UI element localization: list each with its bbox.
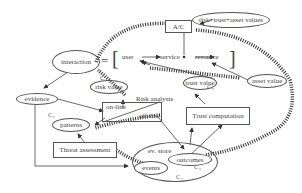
node-resource: resource	[195, 54, 219, 61]
cycle-label-c5: C₅	[207, 83, 214, 91]
node-patterns: patterns	[52, 118, 90, 132]
node-threat-assessment: Threat assessment	[53, 142, 117, 158]
node-on-line: on-line	[106, 104, 126, 111]
node-ac-label: A/C	[173, 23, 185, 31]
node-trust-computation: Trust computation	[186, 107, 250, 125]
node-asset-value: asset value	[247, 74, 287, 88]
node-risk-trust-asset-values: risk+trust+asset values	[192, 12, 270, 28]
node-evidence-label: evidence	[25, 95, 50, 103]
bracket-open: [	[112, 48, 119, 68]
node-interaction: interaction	[52, 50, 100, 74]
cycle-label-c3: C₃	[194, 163, 201, 171]
node-evidence: evidence	[16, 93, 58, 105]
node-risk-value: risk value	[90, 80, 128, 94]
node-threat-assessment-label: Threat assessment	[59, 146, 110, 154]
node-risk-trust-asset-label: risk+trust+asset values	[199, 16, 263, 24]
node-events-label: events	[142, 164, 160, 172]
cycle-label-c1: C₁	[176, 173, 183, 181]
node-patterns-label: patterns	[60, 121, 82, 129]
node-interaction-label: interaction	[61, 58, 91, 66]
bracket-close: ]	[229, 48, 236, 68]
node-trust-computation-label: Trust computation	[192, 112, 243, 120]
node-asset-value-label: asset value	[252, 77, 283, 85]
node-ac: A/C	[165, 20, 192, 33]
node-risk-value-label: risk value	[95, 83, 122, 91]
equals-sign: =	[101, 54, 108, 67]
node-off-line: off-line	[139, 113, 160, 120]
node-outcomes: outcomes	[168, 153, 212, 166]
node-user: user	[122, 54, 134, 61]
node-service: service	[160, 54, 180, 61]
cycle-label-c4: C₄	[100, 74, 107, 82]
label-ev-store: ev. store	[148, 148, 171, 155]
cycle-label-c2: C₂	[48, 111, 55, 119]
node-events: events	[134, 161, 168, 175]
